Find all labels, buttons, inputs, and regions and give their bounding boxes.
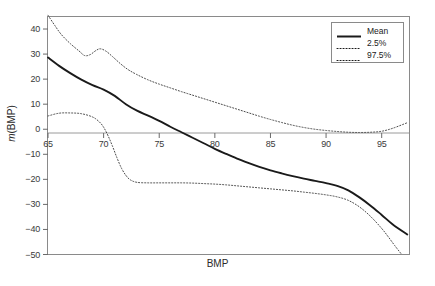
x-tick-label: 80 <box>210 139 220 149</box>
y-tick-label: 40 <box>6 24 40 34</box>
x-tick-label: 65 <box>43 139 53 149</box>
legend-item: 2.5% <box>336 38 399 49</box>
legend-label: 97.5% <box>367 51 391 60</box>
y-tick-label: 30 <box>6 49 40 59</box>
y-axis-title: m(BMP) <box>6 94 17 154</box>
x-tick-label: 70 <box>99 139 109 149</box>
y-tick-label: −30 <box>6 199 40 209</box>
series-line-2 <box>48 113 402 255</box>
y-axis-title-rest: (BMP) <box>6 105 17 133</box>
x-tick-label: 85 <box>266 139 276 149</box>
y-tick-label: −20 <box>6 174 40 184</box>
y-tick-label: 20 <box>6 74 40 84</box>
legend-item: 97.5% <box>336 50 399 61</box>
chart-figure: 403020100−10−20−30−40−50 65707580859095 … <box>0 0 435 286</box>
legend-line-sample <box>336 39 362 48</box>
legend-item: Mean <box>336 26 399 37</box>
x-tick-label: 90 <box>321 139 331 149</box>
x-tick-label: 95 <box>377 139 387 149</box>
y-axis-title-italic: m <box>6 134 17 142</box>
y-tick-label: −40 <box>6 224 40 234</box>
legend-line-sample <box>336 51 362 60</box>
chart-legend: Mean2.5%97.5% <box>331 22 404 63</box>
legend-label: Mean <box>367 27 388 36</box>
legend-label: 2.5% <box>367 39 386 48</box>
legend-line-sample <box>336 27 362 36</box>
x-tick-label: 75 <box>154 139 164 149</box>
x-tick-marks <box>48 133 382 138</box>
x-axis-title: BMP <box>0 258 435 269</box>
